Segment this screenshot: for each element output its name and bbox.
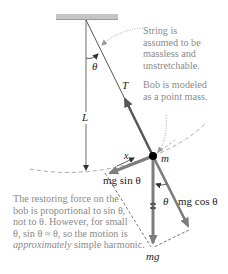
- mass-label: m: [161, 152, 169, 164]
- theta-arc-top: [86, 54, 98, 59]
- tension-arrow: [125, 99, 153, 156]
- mg-sin-arrow: [110, 156, 153, 173]
- swing-arc: [30, 124, 205, 172]
- string-note: String is assumed to be massless and uns…: [143, 25, 201, 71]
- length-label: L: [82, 111, 88, 123]
- bob: [149, 152, 157, 160]
- mg-cos-arrow: [153, 156, 188, 226]
- mg-cos-label: mg cos θ: [178, 195, 218, 207]
- theta-label-top: θ: [92, 60, 97, 72]
- mg-label: mg: [146, 250, 159, 262]
- tension-label: T: [122, 79, 128, 91]
- theta-label-bottom: θ: [163, 195, 168, 207]
- string-callout-line: [102, 28, 143, 45]
- bob-note: Bob is modeled as a point mass.: [143, 79, 208, 102]
- displacement-label: x: [124, 150, 128, 162]
- ceiling-support: [56, 14, 118, 19]
- mg-sin-label: mg sin θ: [103, 174, 141, 186]
- bob-callout-line: [158, 115, 166, 152]
- restoring-force-note: The restoring force on the bob is propor…: [13, 193, 145, 251]
- theta-arc-bottom: [156, 184, 167, 185]
- parallelogram-side-right: [154, 230, 189, 247]
